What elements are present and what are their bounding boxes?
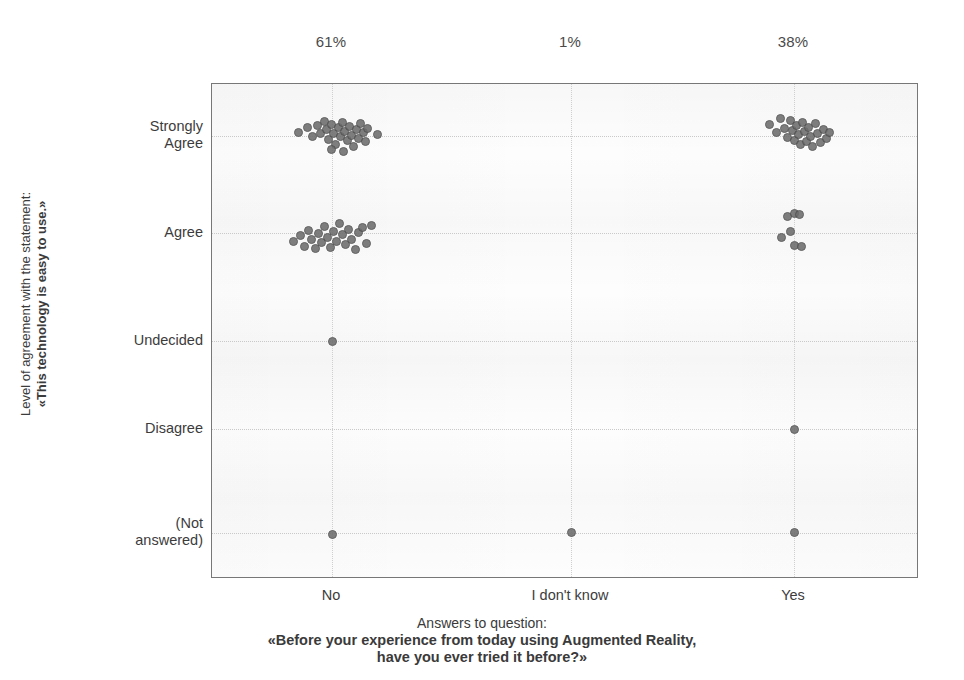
data-point <box>786 227 795 236</box>
y-axis-title-line1: Level of agreement with the statement: <box>18 139 34 469</box>
data-point <box>797 242 806 251</box>
gridline-horizontal <box>212 533 917 534</box>
data-point <box>367 221 376 230</box>
data-point <box>304 226 313 235</box>
y-axis-title-line2: «This technology is easy to use.» <box>34 139 50 469</box>
gridline-vertical <box>332 84 333 577</box>
x-axis-caption-line2: «Before your experience from today using… <box>0 632 964 649</box>
y-axis-title: Level of agreement with the statement: «… <box>18 139 50 469</box>
x-axis-caption: Answers to question: «Before your experi… <box>0 615 964 666</box>
percent-label-no: 61% <box>316 33 347 50</box>
x-tick-i-dont-know: I don't know <box>532 587 609 603</box>
data-point <box>339 147 348 156</box>
data-point <box>777 233 786 242</box>
gridline-vertical <box>794 84 795 577</box>
data-point <box>294 128 303 137</box>
y-tick-agree: Agree <box>83 224 203 241</box>
data-point <box>361 137 370 146</box>
gridline-vertical <box>571 84 572 577</box>
data-point <box>790 425 799 434</box>
data-point <box>349 142 358 151</box>
percent-label-yes: 38% <box>778 33 809 50</box>
data-point <box>328 337 337 346</box>
data-point <box>347 235 356 244</box>
data-point <box>795 210 804 219</box>
data-point <box>362 239 371 248</box>
data-point <box>296 231 305 240</box>
data-point <box>790 528 799 537</box>
gridline-horizontal <box>212 429 917 430</box>
y-tick-not-answered: (Not answered) <box>83 515 203 549</box>
x-axis-caption-line3: have you ever tried it before?» <box>0 649 964 666</box>
x-tick-yes: Yes <box>781 587 805 603</box>
data-point <box>358 223 367 232</box>
gridline-horizontal <box>212 341 917 342</box>
y-tick-undecided: Undecided <box>83 332 203 349</box>
x-axis-caption-line1: Answers to question: <box>0 615 964 632</box>
data-point <box>765 120 774 129</box>
data-point <box>373 130 382 139</box>
chart-canvas: 61% 1% 38% Strongly Agree Agree Undecide… <box>0 0 964 680</box>
x-tick-no: No <box>322 587 341 603</box>
data-point <box>363 124 372 133</box>
data-point <box>300 242 309 251</box>
data-point <box>351 245 360 254</box>
data-point <box>327 145 336 154</box>
percent-label-i-dont-know: 1% <box>559 33 581 50</box>
data-point <box>329 227 338 236</box>
y-axis-tick-labels: Strongly Agree Agree Undecided Disagree … <box>83 0 203 680</box>
data-point <box>335 219 344 228</box>
data-point <box>344 225 353 234</box>
plot-area <box>211 83 918 578</box>
data-point <box>320 222 329 231</box>
y-tick-disagree: Disagree <box>83 420 203 437</box>
data-point <box>328 530 337 539</box>
data-point <box>825 128 834 137</box>
data-point <box>303 123 312 132</box>
y-tick-strongly-agree: Strongly Agree <box>83 118 203 152</box>
data-point <box>776 114 785 123</box>
data-point <box>567 528 576 537</box>
data-point <box>811 119 820 128</box>
